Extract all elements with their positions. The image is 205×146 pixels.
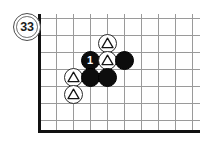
- triangle-icon: [101, 54, 114, 66]
- go-diagram-screenshot: 1 33: [0, 0, 205, 146]
- triangle-icon: [67, 88, 80, 100]
- triangle-icon: [67, 71, 80, 83]
- move-number-badge: 33: [13, 13, 41, 41]
- triangle-icon: [101, 37, 114, 49]
- stone-black[interactable]: [81, 68, 100, 87]
- stone-white-triangle[interactable]: [64, 68, 83, 87]
- move-number-text: 33: [20, 21, 33, 34]
- stone-black[interactable]: [115, 51, 134, 70]
- stone-move-number: 1: [87, 55, 93, 66]
- stone-white-triangle[interactable]: [98, 51, 117, 70]
- stone-black-number[interactable]: 1: [81, 51, 100, 70]
- stone-white-triangle[interactable]: [64, 85, 83, 104]
- stone-white-triangle[interactable]: [98, 34, 117, 53]
- stone-black[interactable]: [98, 68, 117, 87]
